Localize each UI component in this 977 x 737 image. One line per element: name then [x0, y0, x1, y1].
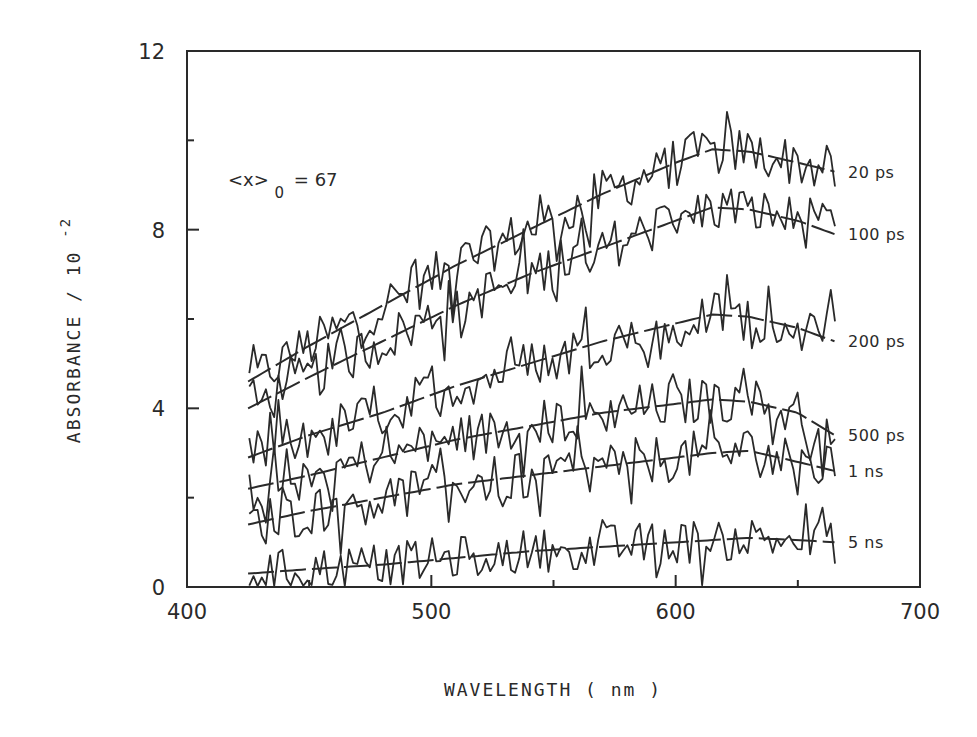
- annotation-mean-x: <x> 0 = 67: [228, 169, 338, 202]
- absorbance-spectra-chart: 40050060070004812 20 ps100 ps200 ps500 p…: [0, 0, 977, 737]
- annotation-main: <x>: [228, 169, 269, 190]
- y-tick-label: 4: [152, 397, 165, 421]
- series-label: 200 ps: [848, 332, 905, 351]
- series-label: 500 ps: [848, 426, 905, 445]
- series-label: 20 ps: [848, 163, 894, 182]
- x-axis-title: WAVELENGTH ( nm ): [444, 679, 662, 700]
- y-tick-label: 8: [152, 219, 165, 243]
- annotation-subscript: 0: [275, 184, 285, 202]
- x-tick-label: 700: [900, 600, 940, 624]
- y-tick-label: 12: [138, 40, 165, 64]
- x-tick-label: 400: [167, 600, 207, 624]
- series-label: 5 ns: [848, 533, 884, 552]
- y-tick-label: 0: [152, 576, 165, 600]
- axis-ticks: [187, 51, 920, 587]
- x-tick-label: 600: [656, 600, 696, 624]
- svg-text:ABSORBANCE / 10 -2: ABSORBANCE / 10 -2: [57, 217, 84, 443]
- annotation-value: = 67: [294, 169, 338, 190]
- y-axis-title-exponent: -2: [57, 217, 73, 238]
- y-axis-title: ABSORBANCE / 10 -2: [57, 217, 84, 443]
- series-label: 100 ps: [848, 225, 905, 244]
- measured-trace: [249, 275, 835, 466]
- series-label: 1 ns: [848, 462, 884, 481]
- plot-frame: [187, 51, 920, 587]
- x-tick-label: 500: [411, 600, 451, 624]
- series-200-ps: [248, 275, 835, 466]
- plot-area-border: [187, 51, 920, 587]
- series-labels: 20 ps100 ps200 ps500 ps1 ns5 ns: [848, 163, 905, 553]
- series-5-ns: [248, 504, 835, 586]
- y-axis-title-main: ABSORBANCE / 10: [63, 251, 84, 444]
